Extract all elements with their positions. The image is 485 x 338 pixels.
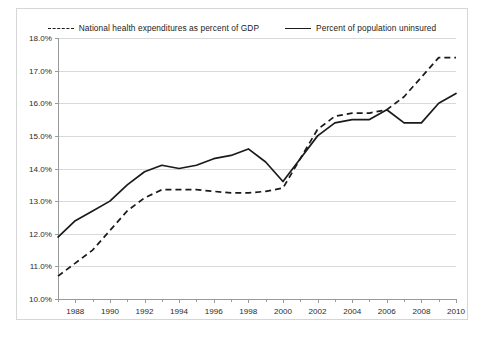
y-axis-label-6: 16.0% xyxy=(29,99,52,108)
y-axis-label-3: 13.0% xyxy=(29,197,52,206)
y-axis-label-1: 11.0% xyxy=(30,262,52,271)
line-chart: 10.0%11.0%12.0%13.0%14.0%15.0%16.0%17.0%… xyxy=(17,9,469,321)
y-axis-label-2: 12.0% xyxy=(29,230,52,239)
y-axis-label-0: 10.0% xyxy=(29,295,52,304)
x-axis-label-11: 2010 xyxy=(447,307,466,316)
x-axis-label-3: 1994 xyxy=(170,307,189,316)
x-axis-label-1: 1990 xyxy=(101,307,120,316)
figure-frame: National health expenditures as percent … xyxy=(16,8,468,320)
x-axis-label-0: 1988 xyxy=(66,307,85,316)
y-axis-label-4: 14.0% xyxy=(29,165,52,174)
x-axis-label-8: 2004 xyxy=(343,307,362,316)
plot-area: 10.0%11.0%12.0%13.0%14.0%15.0%16.0%17.0%… xyxy=(17,9,469,321)
y-axis-label-7: 17.0% xyxy=(29,67,52,76)
x-axis-label-9: 2006 xyxy=(378,307,397,316)
series-line-nhe-gdp xyxy=(58,58,456,277)
x-axis-label-7: 2002 xyxy=(309,307,328,316)
y-axis-label-5: 15.0% xyxy=(29,132,52,141)
x-axis-label-5: 1998 xyxy=(239,307,258,316)
x-axis-label-6: 2000 xyxy=(274,307,293,316)
x-axis-label-10: 2008 xyxy=(412,307,431,316)
series-line-uninsured xyxy=(58,93,456,237)
x-axis-label-4: 1996 xyxy=(205,307,224,316)
x-axis-label-2: 1992 xyxy=(136,307,155,316)
y-axis-label-8: 18.0% xyxy=(29,34,52,43)
